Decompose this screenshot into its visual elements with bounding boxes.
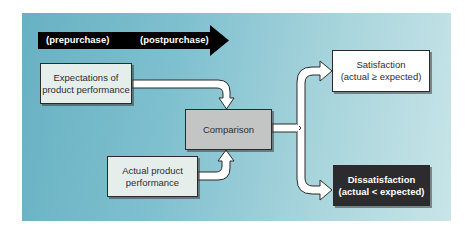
- node-actual-line2: performance: [122, 177, 183, 189]
- node-satisfaction-line2: (actual ≥ expected): [341, 71, 422, 83]
- node-satisfaction: Satisfaction (actual ≥ expected): [332, 50, 430, 92]
- node-expectations-line2: product performance: [42, 84, 130, 96]
- node-satisfaction-line1: Satisfaction: [341, 59, 422, 71]
- node-actual-line1: Actual product: [122, 165, 183, 177]
- node-expectations-line1: Expectations of: [42, 72, 130, 84]
- arrow-comparison-to-outcomes: [272, 61, 332, 200]
- node-comparison: Comparison: [185, 109, 272, 150]
- timeline-label-postpurchase: (postpurchase): [140, 34, 209, 45]
- node-dissatisfaction-line2: (actual < expected): [339, 186, 425, 198]
- arrow-actual-to-comparison: [198, 150, 234, 180]
- node-comparison-label: Comparison: [203, 124, 254, 136]
- arrow-expectations-to-comparison: [132, 80, 234, 109]
- node-dissatisfaction-line1: Dissatisfaction: [339, 174, 425, 186]
- node-actual-performance: Actual product performance: [107, 156, 198, 197]
- timeline-label-prepurchase: (prepurchase): [46, 34, 109, 45]
- node-dissatisfaction: Dissatisfaction (actual < expected): [333, 165, 430, 206]
- node-expectations: Expectations of product performance: [40, 63, 132, 104]
